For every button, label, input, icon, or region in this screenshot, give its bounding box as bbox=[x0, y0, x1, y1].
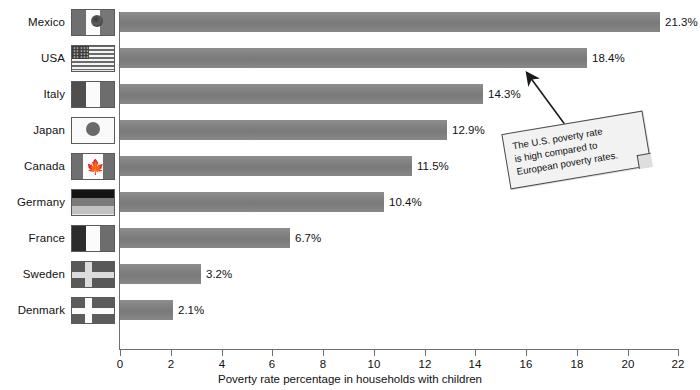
bar-value-label: 18.4% bbox=[592, 48, 625, 68]
flag-usa-icon: ★★★★★★ ★★★★★ ★★★★★★ ★★★★★ ★★★★★★ bbox=[71, 45, 115, 72]
x-tick bbox=[323, 349, 324, 356]
flag-germany-icon bbox=[71, 189, 115, 216]
x-tick bbox=[628, 349, 629, 356]
x-tick-label: 12 bbox=[410, 358, 440, 370]
x-tick bbox=[526, 349, 527, 356]
category-row: Denmark bbox=[0, 294, 115, 326]
flag-denmark-icon bbox=[71, 297, 115, 324]
flag-japan-icon bbox=[71, 117, 115, 144]
bar-japan bbox=[120, 120, 447, 140]
flag-france-icon bbox=[71, 225, 115, 252]
flag-mexico-icon bbox=[71, 9, 115, 36]
annotation-callout: The U.S. poverty rate is high compared t… bbox=[501, 111, 651, 190]
x-tick-label: 16 bbox=[511, 358, 541, 370]
x-tick bbox=[171, 349, 172, 356]
category-label: Denmark bbox=[18, 304, 65, 316]
flag-canada-icon: 🍁 bbox=[71, 153, 115, 180]
category-label: Sweden bbox=[23, 268, 65, 280]
category-label: USA bbox=[41, 52, 65, 64]
bar-value-label: 12.9% bbox=[452, 120, 485, 140]
bar-germany bbox=[120, 192, 384, 212]
category-row: Sweden bbox=[0, 258, 115, 290]
category-label: Japan bbox=[33, 124, 65, 136]
category-row: France bbox=[0, 222, 115, 254]
category-label: Germany bbox=[17, 196, 65, 208]
category-label: France bbox=[29, 232, 65, 244]
category-label: Canada bbox=[24, 160, 65, 172]
x-tick-label: 0 bbox=[105, 358, 135, 370]
category-row: USA ★★★★★★ ★★★★★ ★★★★★★ ★★★★★ ★★★★★★ bbox=[0, 42, 115, 74]
x-tick-label: 22 bbox=[663, 358, 693, 370]
x-tick-label: 14 bbox=[460, 358, 490, 370]
category-row: Mexico bbox=[0, 6, 115, 38]
bar-chart: Mexico USA bbox=[0, 0, 700, 390]
x-axis-line bbox=[119, 349, 679, 350]
bar-canada bbox=[120, 156, 412, 176]
flag-italy-icon bbox=[71, 81, 115, 108]
x-tick bbox=[120, 349, 121, 356]
category-row: Germany bbox=[0, 186, 115, 218]
x-tick bbox=[577, 349, 578, 356]
bar-value-label: 3.2% bbox=[206, 264, 232, 284]
x-tick-label: 18 bbox=[562, 358, 592, 370]
bar-value-label: 10.4% bbox=[389, 192, 422, 212]
category-row: Canada 🍁 bbox=[0, 150, 115, 182]
bar-france bbox=[120, 228, 290, 248]
bar-usa bbox=[120, 48, 587, 68]
x-tick bbox=[425, 349, 426, 356]
x-tick bbox=[222, 349, 223, 356]
x-tick-label: 20 bbox=[613, 358, 643, 370]
category-label: Italy bbox=[43, 88, 65, 100]
x-axis-title: Poverty rate percentage in households wi… bbox=[0, 373, 700, 385]
x-tick-label: 8 bbox=[308, 358, 338, 370]
x-tick-label: 10 bbox=[359, 358, 389, 370]
bar-italy bbox=[120, 84, 483, 104]
x-tick-label: 6 bbox=[257, 358, 287, 370]
category-label: Mexico bbox=[28, 16, 65, 28]
x-tick bbox=[678, 349, 679, 356]
bar-mexico bbox=[120, 12, 660, 32]
bar-denmark bbox=[120, 300, 173, 320]
category-row: Italy bbox=[0, 78, 115, 110]
bar-sweden bbox=[120, 264, 201, 284]
x-tick bbox=[475, 349, 476, 356]
bar-value-label: 11.5% bbox=[417, 156, 449, 176]
bar-value-label: 14.3% bbox=[488, 84, 521, 104]
bar-value-label: 2.1% bbox=[178, 300, 204, 320]
category-row: Japan bbox=[0, 114, 115, 146]
x-tick-label: 2 bbox=[156, 358, 186, 370]
bar-value-label: 6.7% bbox=[295, 228, 321, 248]
flag-sweden-icon bbox=[71, 261, 115, 288]
x-tick-label: 4 bbox=[207, 358, 237, 370]
x-tick bbox=[374, 349, 375, 356]
x-tick bbox=[272, 349, 273, 356]
bar-value-label: 21.3% bbox=[665, 12, 698, 32]
